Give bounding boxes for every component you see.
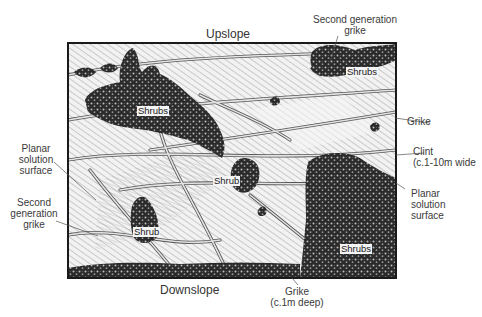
callout-second-generation-grike-top: Second generation grike xyxy=(300,14,410,36)
shrub-label-center: Shrub xyxy=(213,176,240,186)
shrubs-label-upper-left: Shrubs xyxy=(137,106,169,116)
callout-second-generation-grike-left: Second generation grike xyxy=(4,197,64,230)
limestone-pavement-illustration xyxy=(0,0,482,317)
callout-planar-solution-surface-right: Planar solution surface xyxy=(411,188,445,221)
shrub-label-lower-left: Shrub xyxy=(133,227,160,237)
shrubs-label-lower-right: Shrubs xyxy=(340,244,372,254)
callout-planar-solution-surface-left: Planar solution surface xyxy=(6,143,66,176)
shrubs-label-upper-right: Shrubs xyxy=(346,67,378,77)
upslope-label: Upslope xyxy=(206,28,250,41)
callout-grike-bottom: Grike (c.1m deep) xyxy=(262,286,332,308)
callout-clint: Clint (c.1-10m wide xyxy=(413,146,476,168)
downslope-label: Downslope xyxy=(160,284,219,297)
callout-grike-right: Grike xyxy=(407,116,431,127)
